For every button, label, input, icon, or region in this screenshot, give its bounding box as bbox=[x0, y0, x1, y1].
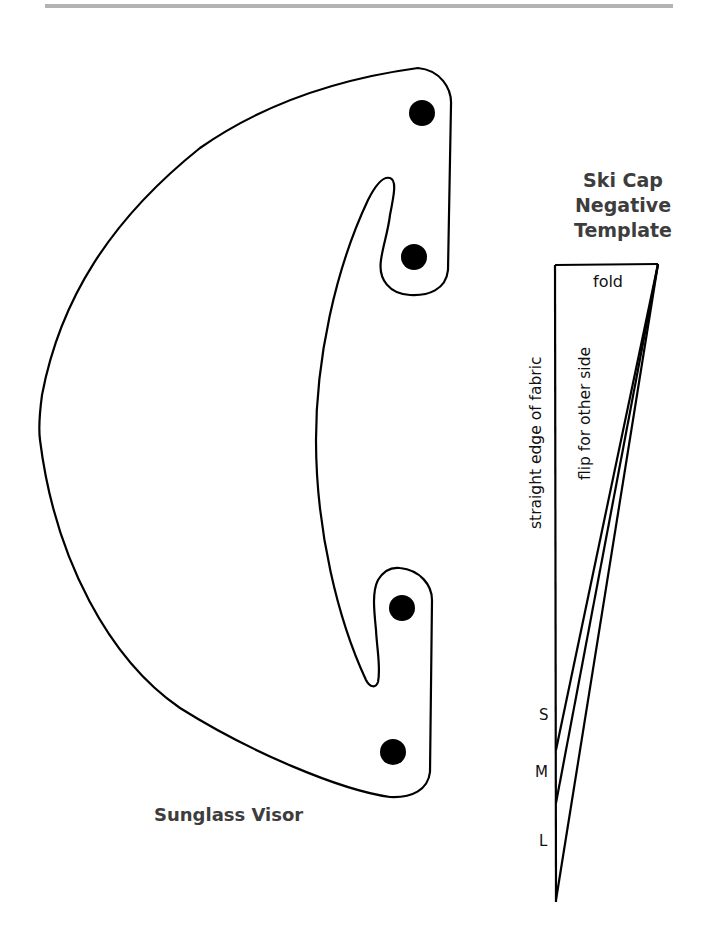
visor-label: Sunglass Visor bbox=[154, 804, 303, 825]
title-line: Template bbox=[568, 218, 678, 243]
pattern-artwork bbox=[0, 0, 710, 940]
title-line: Negative bbox=[568, 193, 678, 218]
hole-icon bbox=[401, 244, 427, 270]
ski-cap-template bbox=[555, 264, 658, 902]
size-m-line bbox=[556, 264, 658, 803]
visor-holes bbox=[380, 100, 435, 765]
hole-icon bbox=[389, 595, 415, 621]
size-l-line bbox=[556, 264, 658, 900]
hole-icon bbox=[380, 739, 406, 765]
title-line: Ski Cap bbox=[568, 168, 678, 193]
visor-outline bbox=[39, 68, 451, 797]
flip-label: flip for other side bbox=[576, 347, 594, 480]
fold-label: fold bbox=[593, 272, 623, 291]
hole-icon bbox=[409, 100, 435, 126]
straight-edge-label: straight edge of fabric bbox=[527, 356, 545, 529]
fold-edge bbox=[555, 264, 658, 265]
ski-cap-title: Ski Cap Negative Template bbox=[568, 168, 678, 243]
straight-edge bbox=[555, 265, 556, 902]
size-s-line bbox=[556, 264, 658, 750]
size-s-label: S bbox=[539, 706, 549, 724]
size-l-label: L bbox=[539, 832, 547, 850]
size-m-label: M bbox=[535, 763, 548, 781]
